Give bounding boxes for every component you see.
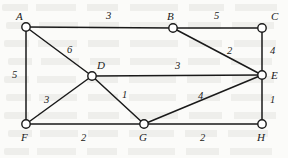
edge-weight-be: 2 bbox=[227, 46, 232, 57]
graph-edge-ab bbox=[26, 27, 173, 28]
node-label-c: C bbox=[271, 11, 278, 22]
edge-weight-dg: 1 bbox=[122, 90, 127, 101]
node-label-e: E bbox=[271, 70, 278, 81]
edge-weight-ad: 6 bbox=[67, 45, 72, 56]
graph-node-h bbox=[258, 120, 266, 128]
edge-weight-af: 5 bbox=[12, 70, 17, 81]
edge-weight-de: 3 bbox=[175, 61, 180, 72]
graph-node-g bbox=[140, 120, 148, 128]
graph-edge-ad bbox=[26, 27, 92, 76]
graph-edge-df bbox=[26, 76, 92, 124]
node-label-b: B bbox=[167, 11, 174, 22]
graph-node-e bbox=[258, 71, 266, 79]
graph-edge-be bbox=[173, 28, 262, 75]
node-label-h: H bbox=[257, 132, 265, 143]
node-label-a: A bbox=[16, 11, 23, 22]
edges-group bbox=[26, 27, 262, 124]
graph-edge-dg bbox=[92, 76, 144, 124]
graph-node-c bbox=[258, 24, 266, 32]
edge-weight-fg: 2 bbox=[81, 133, 86, 144]
edge-weight-ce: 4 bbox=[270, 46, 275, 57]
graph-figure: 3565243312421ABCDEFGH bbox=[0, 0, 288, 158]
edge-weight-ab: 3 bbox=[106, 11, 111, 22]
edge-weight-eh: 1 bbox=[270, 95, 275, 106]
edge-weight-ge: 4 bbox=[198, 91, 203, 102]
node-label-f: F bbox=[21, 132, 28, 143]
graph-node-f bbox=[22, 120, 30, 128]
graph-edge-de bbox=[92, 75, 262, 76]
node-label-d: D bbox=[97, 60, 105, 71]
graph-node-b bbox=[169, 24, 177, 32]
edge-weight-gh: 2 bbox=[200, 133, 205, 144]
graph-node-a bbox=[22, 23, 30, 31]
edge-weight-bc: 5 bbox=[214, 11, 219, 22]
node-label-g: G bbox=[139, 132, 147, 143]
graph-node-d bbox=[88, 72, 96, 80]
edge-weight-df: 3 bbox=[44, 95, 49, 106]
